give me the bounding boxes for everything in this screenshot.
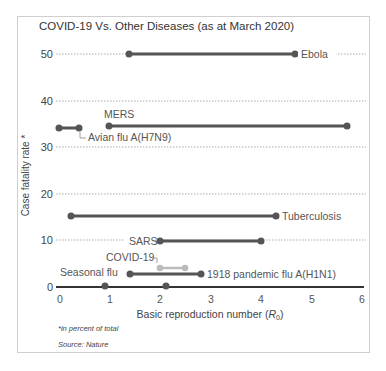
x-tick: 5: [309, 293, 315, 305]
x-tick: 6: [359, 293, 365, 305]
y-tick: 50: [41, 48, 53, 60]
y-tick: 0: [47, 281, 53, 293]
label-seasonal-flu: Seasonal flu: [60, 266, 118, 278]
dumbbell-tuberculosis: [68, 213, 280, 220]
x-tick: 1: [107, 293, 113, 305]
x-tick: 0: [57, 293, 63, 305]
x-ticks: 0 1 2 3 4 5 6: [57, 293, 365, 305]
x-tick: 4: [258, 293, 264, 305]
y-tick: 30: [41, 141, 53, 153]
y-tick: 20: [41, 188, 53, 200]
dumbbell-avian-flu: [56, 125, 83, 132]
label-tuberculosis: Tuberculosis: [282, 210, 341, 222]
label-mers: MERS: [104, 108, 134, 120]
dumbbell-ebola: [126, 51, 299, 58]
footnote: *in percent of total: [58, 324, 118, 333]
dumbbells: [56, 51, 351, 290]
label-avian-flu: Avian flu A(H7N9): [88, 131, 171, 143]
x-tick: 3: [208, 293, 214, 305]
dumbbell-sars: [157, 238, 265, 245]
y-tick: 40: [41, 95, 53, 107]
dumbbell-1918-flu: [127, 271, 205, 278]
label-ebola: Ebola: [301, 48, 328, 60]
y-tick: 10: [41, 234, 53, 246]
dumbbell-mers: [106, 123, 351, 130]
label-1918-flu: 1918 pandemic flu A(H1N1): [207, 268, 336, 280]
chart-plot: 50 40 30 20 10 0 0 1 2 3 4 5 6 Basic rep…: [0, 0, 386, 371]
source-note: Source: Nature: [58, 340, 108, 349]
label-covid19: COVID-19: [106, 251, 155, 263]
x-tick: 2: [157, 293, 163, 305]
label-sars: SARS: [129, 235, 158, 247]
series-labels: Ebola MERS Avian flu A(H7N9) Tuberculosi…: [60, 48, 341, 280]
x-axis-label: Basic reproduction number (R0): [137, 308, 284, 321]
dumbbell-covid19: [157, 265, 189, 272]
y-ticks: 50 40 30 20 10 0: [41, 48, 53, 293]
